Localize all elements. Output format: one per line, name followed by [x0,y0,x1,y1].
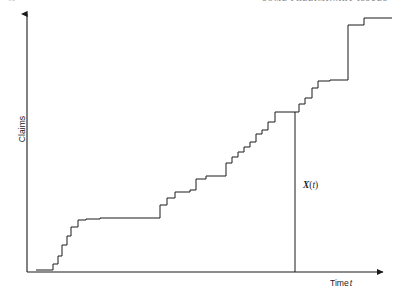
x-axis-label-text: Time [330,278,349,288]
figure-container: 10 SOME PRELIMINARY ISSUES Claims Timet … [0,0,396,307]
x-axis-label-variable: t [349,278,352,288]
y-axis-label-text: Claims [17,116,27,142]
curve-annotation-xt: X(t) [303,180,318,190]
step-function-plot [0,0,396,307]
y-axis-label: Claims [17,99,27,159]
step-curve-claims [36,18,392,270]
curve-annotation-close-paren: ) [315,180,318,190]
x-axis-label: Timet [330,278,352,288]
